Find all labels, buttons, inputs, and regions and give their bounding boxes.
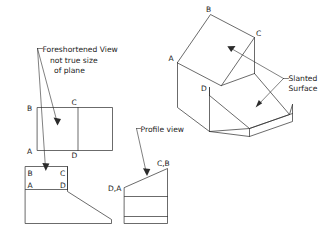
isometric-slab-lower-edge: [250, 114, 293, 137]
isometric-slab-right-edge: [250, 105, 293, 129]
isometric-slanted-face: [178, 15, 255, 86]
profile-view-note-label: Profile view: [141, 125, 185, 134]
top-view-label-d: D: [72, 151, 78, 160]
slanted-arrowhead-1: [227, 46, 235, 52]
front-view-label-c: C: [60, 169, 65, 178]
foreshortened-note-line-1: Foreshortened View: [43, 45, 118, 54]
isometric-mid-top-edge: [222, 74, 255, 86]
isometric-label-a: A: [169, 54, 175, 63]
slanted-surface-note-line-1: Slanted: [289, 74, 318, 83]
profile-leader-arrowhead: [143, 168, 150, 176]
foreshortened-arrowhead-2: [42, 163, 49, 171]
technical-drawing-canvas: B C A D Foreshortened View not true size…: [0, 0, 336, 237]
slanted-surface-note-leaders: [227, 46, 288, 107]
isometric-view-group: [178, 15, 293, 137]
slanted-surface-note-line-2: Surface: [289, 84, 318, 93]
slanted-leader-line-1: [230, 48, 284, 79]
front-view-label-a: A: [28, 181, 34, 190]
profile-view-outline: [125, 169, 168, 224]
slanted-leader-line-2: [258, 79, 284, 106]
profile-view-label-cb: C,B: [157, 159, 170, 168]
top-view-label-b: B: [27, 104, 32, 113]
profile-leader-line: [137, 129, 147, 174]
foreshortened-note-line-2: not true size: [50, 56, 98, 65]
front-view-label-b: B: [28, 169, 33, 178]
isometric-bottom-slab: [210, 129, 250, 137]
isometric-left-face: [178, 63, 210, 132]
isometric-label-d: D: [201, 84, 207, 93]
top-view-group: [38, 108, 113, 151]
front-view-label-d: D: [60, 181, 66, 190]
isometric-ramp-face: [210, 74, 290, 129]
isometric-slab-back-edge: [290, 105, 293, 115]
profile-view-note-leader: [137, 129, 151, 177]
top-view-label-c: C: [72, 98, 77, 107]
isometric-label-c: C: [256, 29, 261, 38]
top-view-outline: [38, 108, 113, 151]
profile-view-group: [125, 169, 168, 224]
foreshortened-note-line-3: of plane: [54, 66, 85, 75]
isometric-label-b: B: [206, 5, 211, 14]
front-view-group: [26, 167, 112, 224]
slanted-arrowhead-2: [256, 100, 263, 108]
engineering-drawing-svg: B C A D Foreshortened View not true size…: [0, 0, 336, 237]
foreshortened-arrowhead-1: [54, 118, 61, 126]
front-view-outline: [26, 167, 112, 224]
top-view-label-a: A: [27, 147, 33, 156]
profile-view-label-da: D,A: [108, 184, 122, 193]
